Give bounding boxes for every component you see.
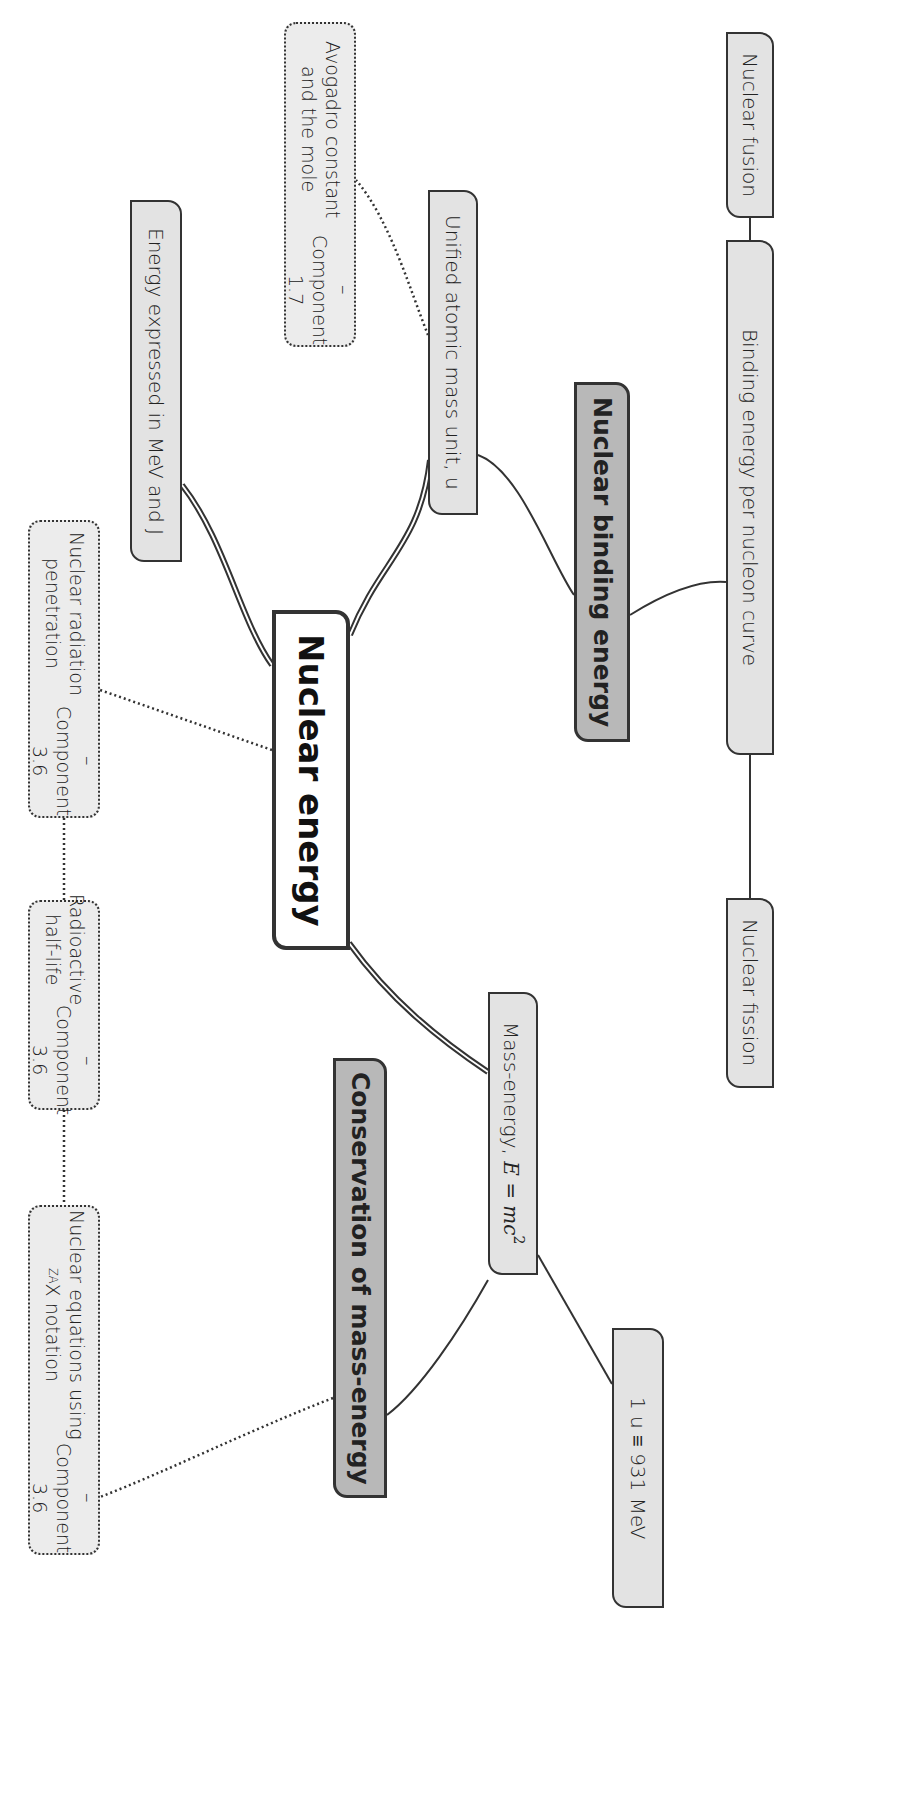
node-label-line1: Nuclear radiation penetration (40, 522, 88, 706)
notation-symbol: X (42, 1284, 64, 1297)
mind-map-canvas: Nuclear fusion Binding energy per nucleo… (0, 0, 905, 1805)
formula-exponent: 2 (511, 1236, 527, 1245)
edge-massenergy-conservation (387, 1280, 488, 1415)
node-label: Binding energy per nucleon curve (738, 329, 762, 666)
node-avogadro-constant[interactable]: Avogadro constant and the mole – Compone… (284, 22, 356, 347)
equations-text-pre: Nuclear equations using (66, 1210, 88, 1440)
node-u-931-mev[interactable]: 1 u ≡ 931 MeV (612, 1328, 664, 1608)
node-nuclear-equations[interactable]: Nuclear equations using ZAX notation – C… (28, 1205, 100, 1555)
node-radioactive-half-life[interactable]: Radioactive half-life – Component 3.6 (28, 900, 100, 1110)
node-label: Conservation of mass-energy (346, 1072, 375, 1485)
node-energy-mev-j[interactable]: Energy expressed in MeV and J (130, 200, 182, 562)
node-label: Nuclear fission (738, 919, 762, 1066)
edge-center-radiation (100, 690, 272, 750)
node-label: Mass-energy, E = mc2 (499, 1022, 527, 1244)
edge-binding-curve (630, 582, 726, 615)
edge-amu-binding (478, 455, 574, 595)
node-nuclear-radiation-penetration[interactable]: Nuclear radiation penetration – Componen… (28, 520, 100, 818)
node-label-line1: Nuclear equations using ZAX notation (40, 1207, 88, 1443)
node-nuclear-fusion[interactable]: Nuclear fusion (726, 32, 774, 218)
node-nuclear-fission[interactable]: Nuclear fission (726, 898, 774, 1088)
notation-subscript: Z (46, 1268, 60, 1276)
node-label-line2: – Component 3.6 (27, 1443, 98, 1553)
node-binding-energy-curve[interactable]: Binding energy per nucleon curve (726, 240, 774, 755)
node-nuclear-binding-energy[interactable]: Nuclear binding energy (574, 382, 630, 742)
node-nuclear-energy-center[interactable]: Nuclear energy (272, 610, 350, 950)
node-mass-energy[interactable]: Mass-energy, E = mc2 (488, 992, 538, 1275)
formula-text: E = mc (499, 1162, 523, 1236)
node-label: 1 u ≡ 931 MeV (626, 1397, 650, 1539)
edge-conservation-equations (100, 1398, 333, 1497)
node-label-line2: – Component 3.6 (27, 1005, 98, 1115)
edge-amu-avogadro (356, 180, 428, 335)
node-conservation-mass-energy[interactable]: Conservation of mass-energy (333, 1058, 387, 1498)
node-label: Nuclear binding energy (588, 397, 617, 727)
node-label: Nuclear energy (291, 634, 331, 927)
edge-center-mev (182, 485, 272, 665)
edge-center-amu (350, 460, 430, 635)
node-label-line1: Avogadro constant and the mole (296, 24, 344, 235)
node-label-line1: Radioactive half-life (40, 894, 88, 1005)
node-label: Energy expressed in MeV and J (144, 228, 168, 535)
mass-energy-text: Mass-energy, (499, 1022, 523, 1161)
notation-superscript: A (46, 1276, 60, 1284)
node-label: Nuclear fusion (738, 53, 762, 197)
edge-center-massenergy (349, 943, 488, 1072)
node-unified-atomic-mass-unit[interactable]: Unified atomic mass unit, u (428, 190, 478, 515)
node-label: Unified atomic mass unit, u (441, 215, 465, 490)
node-label-line2: – Component 3.6 (27, 706, 98, 816)
edge-massenergy-u931 (538, 1255, 612, 1384)
equations-text-post: notation (42, 1297, 64, 1382)
node-label-line2: – Component 1.7 (283, 235, 354, 345)
